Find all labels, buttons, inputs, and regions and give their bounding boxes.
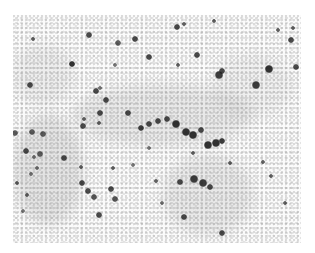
stained-cell	[29, 172, 33, 176]
stained-cell	[288, 37, 294, 43]
stained-cell	[269, 174, 273, 178]
stained-cell	[97, 121, 101, 125]
microscopy-image	[13, 15, 301, 243]
stained-cell	[198, 127, 204, 133]
stained-cell	[199, 179, 207, 187]
tissue-shade	[163, 155, 253, 235]
stained-cell	[125, 110, 131, 116]
stained-cell	[212, 19, 216, 23]
stained-cell	[97, 110, 103, 116]
stained-cell	[61, 155, 67, 161]
stained-cell	[204, 141, 212, 149]
stained-cell	[91, 194, 97, 200]
stained-cell	[15, 181, 19, 185]
stained-cell	[40, 131, 46, 137]
stained-cell	[261, 160, 265, 164]
stained-cell	[82, 117, 86, 121]
stained-cell	[176, 63, 180, 67]
stained-cell	[164, 116, 170, 122]
stained-cell	[32, 155, 36, 159]
stained-cell	[190, 175, 198, 183]
stained-cell	[147, 146, 151, 150]
stained-cell	[174, 24, 180, 30]
stained-cell	[37, 151, 43, 157]
stained-cell	[27, 82, 33, 88]
stained-cell	[103, 97, 109, 103]
stained-cell	[207, 184, 213, 190]
stained-cell	[215, 71, 223, 79]
stained-cell	[138, 125, 144, 131]
tissue-shade	[13, 45, 73, 105]
stained-cell	[131, 163, 135, 167]
stained-cell	[219, 138, 225, 144]
stained-cell	[69, 61, 75, 67]
stained-cell	[86, 32, 92, 38]
stained-cell	[182, 22, 186, 26]
stained-cell	[177, 179, 183, 185]
stained-cell	[291, 26, 295, 30]
stained-cell	[79, 180, 85, 186]
stained-cell	[191, 151, 195, 155]
stained-cell	[108, 186, 114, 192]
stained-cell	[189, 131, 197, 139]
stained-cell	[160, 201, 164, 205]
stained-cell	[283, 201, 287, 205]
stained-cell	[228, 161, 232, 165]
stained-cell	[113, 63, 117, 67]
stained-cell	[111, 166, 115, 170]
stained-cell	[194, 52, 200, 58]
stained-cell	[96, 212, 102, 218]
stained-cell	[21, 209, 25, 213]
stained-cell	[155, 118, 161, 124]
stained-cell	[35, 166, 39, 170]
stained-cell	[132, 36, 138, 42]
stained-cell	[146, 54, 152, 60]
stained-cell	[154, 179, 158, 183]
stained-cell	[276, 28, 280, 32]
stained-cell	[85, 188, 91, 194]
stained-cell	[265, 65, 273, 73]
stained-cell	[80, 123, 86, 129]
stained-cell	[252, 81, 260, 89]
stained-cell	[31, 37, 35, 41]
stained-cell	[25, 193, 29, 197]
stained-cell	[112, 196, 118, 202]
stained-cell	[146, 121, 152, 127]
stained-cell	[115, 40, 121, 46]
stained-cell	[181, 214, 187, 220]
stained-cell	[23, 148, 29, 154]
stained-cell	[79, 165, 83, 169]
stained-cell	[172, 120, 180, 128]
stained-cell	[98, 86, 102, 90]
stained-cell	[219, 230, 225, 236]
stained-cell	[293, 64, 299, 70]
stained-cell	[29, 129, 35, 135]
